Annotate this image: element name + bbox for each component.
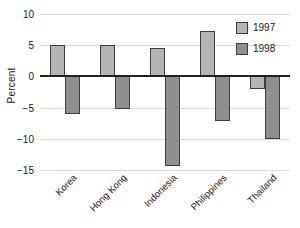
legend-item-1997: 1997 bbox=[236, 19, 275, 36]
legend-item-1998: 1998 bbox=[236, 40, 275, 57]
bar-indonesia-1998 bbox=[165, 76, 180, 165]
x-axis-tick-label: Philippines bbox=[189, 172, 229, 212]
bar-thailand-1997 bbox=[250, 76, 265, 88]
bar-korea-1998 bbox=[65, 76, 80, 114]
bar-thailand-1998 bbox=[265, 76, 280, 138]
x-axis-tick-label: Indonesia bbox=[142, 172, 179, 209]
legend: 1997 1998 bbox=[236, 19, 275, 61]
zero-baseline bbox=[40, 75, 290, 77]
y-axis-ticks: 1050−5−10−15 bbox=[0, 14, 38, 170]
bar-chart: Percent 1050−5−10−15 KoreaHong KongIndon… bbox=[0, 0, 300, 228]
bar-philippines-1997 bbox=[200, 31, 215, 77]
bar-indonesia-1997 bbox=[150, 48, 165, 76]
legend-label-1997: 1997 bbox=[253, 22, 275, 33]
x-axis-tick-label: Thailand bbox=[245, 172, 279, 206]
bar-hong-kong-1997 bbox=[100, 45, 115, 77]
legend-swatch-1997-icon bbox=[236, 22, 248, 34]
legend-swatch-1998-icon bbox=[236, 43, 248, 55]
y-axis-tick-label: 0 bbox=[28, 71, 34, 82]
gridline bbox=[40, 170, 290, 171]
x-axis-tick-label: Hong Kong bbox=[87, 172, 128, 213]
y-axis-tick-label: 10 bbox=[23, 9, 34, 20]
legend-label-1998: 1998 bbox=[253, 43, 275, 54]
y-axis-tick-label: 5 bbox=[28, 40, 34, 51]
y-axis-tick-label: −10 bbox=[17, 133, 34, 144]
bar-korea-1997 bbox=[50, 45, 65, 76]
bar-hong-kong-1998 bbox=[115, 76, 130, 108]
y-axis-tick-label: −15 bbox=[17, 165, 34, 176]
y-axis-tick-label: −5 bbox=[23, 102, 34, 113]
x-axis-labels: KoreaHong KongIndonesiaPhilippinesThaila… bbox=[40, 172, 290, 228]
bar-philippines-1998 bbox=[215, 76, 230, 121]
x-axis-tick-label: Korea bbox=[53, 172, 79, 198]
